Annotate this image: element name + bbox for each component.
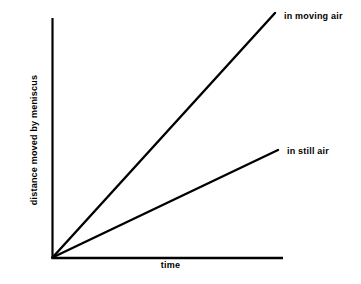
- x-axis-label: time: [0, 260, 341, 270]
- plot-area: [0, 0, 361, 284]
- series-label-in-still-air: in still air: [287, 146, 329, 156]
- series-line-in-moving-air: [53, 13, 276, 258]
- series-line-in-still-air: [53, 150, 279, 258]
- series-label-in-moving-air: in moving air: [284, 11, 343, 21]
- y-axis-label: distance moved by meniscus: [29, 65, 39, 215]
- chart-figure: distance moved by meniscus time in movin…: [0, 0, 361, 284]
